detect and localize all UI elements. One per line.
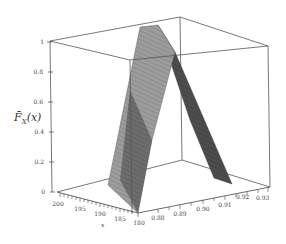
svg-text:200: 200 <box>52 200 64 207</box>
svg-text:0.91: 0.91 <box>218 201 231 208</box>
svg-text:185: 185 <box>114 215 126 222</box>
3d-surface-plot: 0 0.2 0.4 0.6 0.8 1 F̄X(x) 200 195 190 <box>0 0 286 244</box>
svg-text:0.4: 0.4 <box>34 128 44 135</box>
x1-axis-title: x <box>101 221 105 228</box>
svg-text:0.90: 0.90 <box>196 205 210 212</box>
svg-text:0.6: 0.6 <box>33 98 43 105</box>
svg-text:180: 180 <box>133 219 145 226</box>
svg-text:0.89: 0.89 <box>173 210 187 217</box>
base-axes <box>57 187 270 213</box>
svg-text:0.8: 0.8 <box>33 68 43 75</box>
svg-text:190: 190 <box>94 210 106 217</box>
svg-text:0.92: 0.92 <box>236 193 250 200</box>
svg-text:0.88: 0.88 <box>151 214 165 221</box>
svg-text:195: 195 <box>74 205 86 212</box>
svg-text:1: 1 <box>40 38 44 45</box>
svg-text:0.2: 0.2 <box>34 158 44 165</box>
svg-text:0.93: 0.93 <box>256 194 270 201</box>
svg-text:0: 0 <box>41 188 45 195</box>
z-axis-title: F̄X(x) <box>13 111 41 126</box>
